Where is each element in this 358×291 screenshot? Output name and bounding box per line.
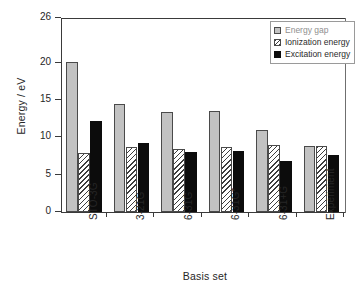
y-tick-label: 5 <box>16 168 51 179</box>
bar <box>66 62 78 212</box>
x-axis-category-label: 6-31G* <box>230 188 241 220</box>
legend-swatch-excitation-energy <box>274 51 281 58</box>
bar <box>209 111 221 212</box>
bar <box>161 112 173 212</box>
y-tick-label: 15 <box>16 93 51 104</box>
x-tick-mark <box>343 212 344 217</box>
x-axis-category-label: 6-31G <box>183 192 194 220</box>
x-axis-title: Basis set <box>60 270 350 282</box>
x-tick-mark <box>248 212 249 217</box>
y-tick-label: 10 <box>16 130 51 141</box>
bar <box>256 130 268 212</box>
legend-item-energy-gap: Energy gap <box>274 25 350 36</box>
bar <box>114 104 126 212</box>
x-tick-mark <box>106 212 107 217</box>
legend-item-ionization-energy: Ionization energy <box>274 37 350 48</box>
x-tick-mark <box>153 212 154 217</box>
x-axis-category-label: 3-21G <box>135 192 146 220</box>
y-tick-label: 0 <box>16 205 51 216</box>
x-axis-category-label: 6-31+G <box>278 186 289 220</box>
x-tick-mark <box>201 212 202 217</box>
legend-item-excitation-energy: Excitation energy <box>274 49 350 60</box>
x-axis-category-label: Experiment <box>325 168 336 220</box>
x-axis-category-label: STO-3G <box>88 182 99 220</box>
legend-label-energy-gap: Energy gap <box>285 26 328 35</box>
bar <box>304 146 316 212</box>
legend-label-ionization-energy: Ionization energy <box>285 38 350 47</box>
x-axis-line <box>61 212 346 213</box>
x-tick-mark <box>296 212 297 217</box>
legend-label-excitation-energy: Excitation energy <box>285 50 350 59</box>
y-tick-label: 26 <box>16 11 51 22</box>
bar-chart-figure: Energy / eV 0510152026 STO-3G3-21G6-31G6… <box>0 0 358 291</box>
legend-swatch-ionization-energy <box>274 39 281 46</box>
chart-legend: Energy gap Ionization energy Excitation … <box>270 21 355 64</box>
legend-swatch-energy-gap <box>274 27 281 34</box>
y-tick-label: 20 <box>16 56 51 67</box>
